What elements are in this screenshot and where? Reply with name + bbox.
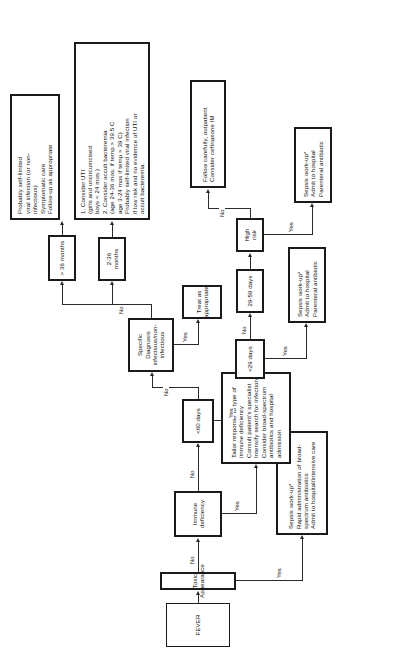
arrow-under29-no bbox=[248, 313, 252, 317]
arrow-2-36-to-uti bbox=[110, 221, 114, 225]
edge-label-under29-yes: Yes bbox=[282, 345, 288, 357]
edge-2-36-to-uti bbox=[112, 223, 113, 237]
edge-immune-yes-horiz bbox=[256, 466, 257, 514]
arrow-to-2-36-months bbox=[110, 281, 114, 285]
node-follow-outpatient: Follow carefully, outpatient Consider ce… bbox=[190, 80, 226, 188]
node-fever: FEVER bbox=[166, 603, 230, 647]
edge-to-2-36-months bbox=[112, 283, 113, 305]
edge-label-toxic-yes: Yes bbox=[276, 567, 282, 579]
node-under-29-days: <29 days bbox=[235, 339, 265, 379]
edge-toxic-yes-vert bbox=[236, 580, 302, 581]
edge-label-toxic-no: No bbox=[189, 555, 195, 565]
edge-label-under29-no: No bbox=[241, 325, 247, 335]
edge-highrisk-no-stub bbox=[250, 208, 251, 218]
arrow-over-36-to-viral bbox=[60, 221, 64, 225]
arrow-immune-yes bbox=[254, 464, 258, 468]
arrow-29-59-to-high-risk bbox=[248, 253, 252, 257]
node-toxic-appearance: Toxic Appearance bbox=[160, 572, 236, 590]
arrow-highrisk-no bbox=[206, 189, 210, 193]
edge-highrisk-no-vert bbox=[208, 208, 250, 209]
edge-label-diagnosis-no: No bbox=[118, 305, 124, 315]
node-2-36-months: 2-36 months bbox=[98, 237, 126, 281]
arrow-diagnosis-yes bbox=[196, 319, 200, 323]
node-sepsis-under-29: Sepsis work-up* Admit to hospital Parent… bbox=[288, 247, 326, 323]
edge-immune-no bbox=[198, 445, 199, 491]
arrow-under60-no bbox=[150, 372, 154, 376]
edge-diagnosis-no-vert bbox=[62, 304, 151, 305]
node-treat-as-appropriate: Treat as appropriate bbox=[182, 285, 222, 319]
edge-diagnosis-yes-vert bbox=[174, 344, 198, 345]
edge-label-highrisk-no: No bbox=[219, 208, 225, 218]
arrow-to-over-36-months bbox=[60, 281, 64, 285]
edge-under29-yes-vert bbox=[265, 358, 306, 359]
node-specific-diagnosis: Specific Diagnosis infectious/non-infect… bbox=[128, 318, 174, 372]
edge-highrisk-yes-horiz bbox=[312, 205, 313, 235]
arrow-immune-no bbox=[196, 443, 200, 447]
arrow-toxic-no bbox=[196, 538, 200, 542]
edge-under60-no-horiz bbox=[152, 374, 153, 388]
arrow-highrisk-yes bbox=[310, 203, 314, 207]
node-immune-deficiency: Immune deficiency bbox=[174, 491, 222, 537]
node-uti-box: 1. Consider UTI (girls and uncircumcised… bbox=[74, 42, 150, 220]
arrow-toxic-yes bbox=[300, 535, 304, 539]
node-viral-box: Probably self-limited viral infection (o… bbox=[10, 94, 60, 220]
edge-immune-yes-vert bbox=[222, 513, 256, 514]
flowchart-canvas: FEVER Toxic Appearance Yes Sepsis work-u… bbox=[0, 0, 397, 665]
edge-label-immune-no: No bbox=[189, 469, 195, 479]
edge-toxic-yes-horiz bbox=[302, 537, 303, 581]
node-over-36-months: > 36 months bbox=[48, 235, 76, 281]
edge-under29-yes-horiz bbox=[306, 325, 307, 359]
edge-under60-no-stub bbox=[198, 387, 199, 399]
arrow-under29-yes bbox=[304, 323, 308, 327]
edge-label-immune-yes: Yes bbox=[234, 500, 240, 512]
node-29-59-days: 29-59 days bbox=[236, 269, 264, 313]
node-high-risk: High risk bbox=[236, 218, 264, 252]
edge-highrisk-yes-vert bbox=[264, 234, 312, 235]
edge-to-over-36-months bbox=[62, 283, 63, 305]
edge-29-59-to-high-risk bbox=[250, 255, 251, 269]
edge-under29-no bbox=[250, 315, 251, 339]
edge-label-highrisk-yes: Yes bbox=[288, 221, 294, 233]
edge-diagnosis-yes-horiz bbox=[198, 321, 199, 345]
node-under-60-days: <60 days bbox=[182, 399, 214, 443]
edge-diagnosis-no-stub bbox=[151, 304, 152, 318]
edge-highrisk-no-horiz bbox=[208, 191, 209, 209]
edge-label-under60-yes: Yes bbox=[228, 407, 234, 419]
node-sepsis-high-risk: Sepsis work-up* Admit to hospital Parent… bbox=[294, 127, 332, 203]
edge-label-diagnosis-yes: Yes bbox=[182, 331, 188, 343]
edge-under60-no-vert bbox=[152, 387, 198, 388]
edge-label-under60-no: No bbox=[163, 387, 169, 397]
